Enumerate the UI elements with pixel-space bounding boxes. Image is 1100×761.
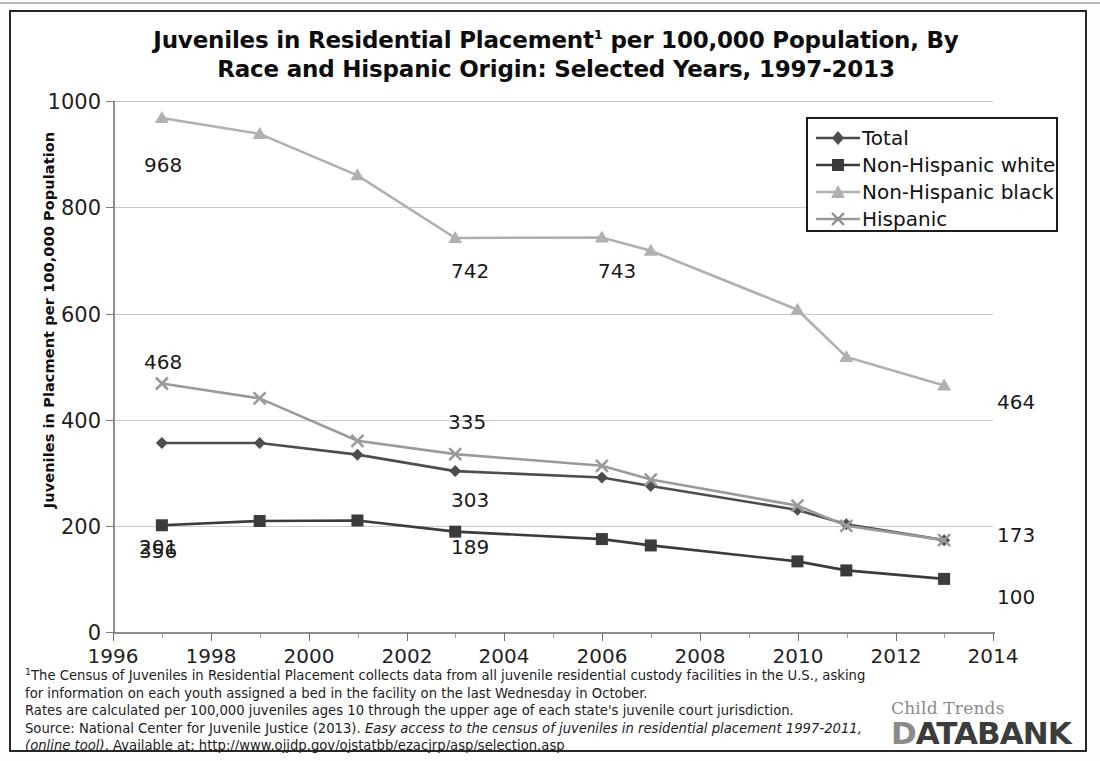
x-tick-label-2002: 2002 xyxy=(372,644,442,668)
child-trends-databank-logo: Child Trends DATABANK xyxy=(891,698,1071,760)
series-point-square xyxy=(351,514,363,526)
x-tick-label-2004: 2004 xyxy=(469,644,539,668)
x-tick-label-1996: 1996 xyxy=(78,644,148,668)
footnote-text-1: The Census of Juveniles in Residential P… xyxy=(31,668,865,683)
triangle-marker-icon xyxy=(816,183,860,201)
series-point-diamond xyxy=(254,437,266,449)
series-line-total xyxy=(162,443,944,540)
y-axis-title: Juveniles in Placment per 100,000 Popula… xyxy=(41,110,57,530)
logo-databank-part3: BANK xyxy=(977,715,1071,751)
source-url[interactable]: . Available at: http://www.ojjdp.gov/ojs… xyxy=(105,738,565,753)
data-label-white-1997: 201 xyxy=(139,535,177,559)
x-tick-label-2000: 2000 xyxy=(274,644,344,668)
figure-page: Juveniles in Residential Placement1 per … xyxy=(0,0,1100,761)
y-tick-label-0: 0 xyxy=(31,621,101,645)
data-label-hispanic-2003: 335 xyxy=(448,410,486,434)
x-tick-label-2008: 2008 xyxy=(665,644,735,668)
series-line-hispanic xyxy=(162,384,944,541)
series-point-square xyxy=(254,515,266,527)
scan-artifact-line xyxy=(0,2,1100,4)
x-tick-label-2006: 2006 xyxy=(567,644,637,668)
series-point-square xyxy=(938,573,950,585)
footnotes: 1The Census of Juveniles in Residential … xyxy=(25,667,865,755)
footnote-line-4: Source: National Center for Juvenile Jus… xyxy=(25,720,865,738)
legend-label-non-hispanic-black: Non-Hispanic black xyxy=(862,180,1054,204)
source-prefix: Source: National Center for Juvenile Jus… xyxy=(25,721,365,736)
x-tick-label-2012: 2012 xyxy=(861,644,931,668)
logo-databank-part1: D xyxy=(891,715,916,751)
data-label-white-2003: 189 xyxy=(451,535,489,559)
data-label-black-2006: 743 xyxy=(598,259,636,283)
x-tick-label-2010: 2010 xyxy=(763,644,833,668)
series-point-square xyxy=(156,519,168,531)
data-label-black-2003: 742 xyxy=(451,259,489,283)
chart-legend: Total Non-Hispanic white Non-Hispanic bl… xyxy=(806,117,1058,232)
data-label-white-2013: 100 xyxy=(997,585,1035,609)
footnote-line-2: for information on each youth assigned a… xyxy=(25,685,865,703)
series-point-square xyxy=(596,533,608,545)
data-label-total-2013: 173 xyxy=(997,523,1035,547)
series-point-diamond xyxy=(596,471,608,483)
figure-frame: Juveniles in Residential Placement1 per … xyxy=(9,10,1087,752)
footnote-line-1: 1The Census of Juveniles in Residential … xyxy=(25,667,865,685)
x-tick-label-1998: 1998 xyxy=(176,644,246,668)
source-title: Easy access to the census of juveniles i… xyxy=(365,721,862,736)
logo-databank-part2: ATA xyxy=(916,715,977,751)
diamond-marker-icon xyxy=(816,129,860,147)
legend-label-hispanic: Hispanic xyxy=(862,207,947,231)
x-marker-icon xyxy=(816,210,860,228)
legend-item-non-hispanic-white[interactable]: Non-Hispanic white xyxy=(816,151,1050,178)
series-line-non-hispanic-white xyxy=(162,521,944,579)
data-label-hispanic-1997: 468 xyxy=(144,350,182,374)
data-label-black-1997: 968 xyxy=(144,153,182,177)
legend-item-non-hispanic-black[interactable]: Non-Hispanic black xyxy=(816,178,1050,205)
data-label-black-2013: 464 xyxy=(997,390,1035,414)
series-point-triangle xyxy=(155,111,169,123)
data-label-total-2003: 303 xyxy=(451,488,489,512)
legend-item-total[interactable]: Total xyxy=(816,124,1050,151)
series-point-square xyxy=(645,539,657,551)
series-point-square xyxy=(840,564,852,576)
source-online-tool: (online tool) xyxy=(25,738,105,753)
legend-item-hispanic[interactable]: Hispanic xyxy=(816,205,1050,232)
footnote-line-3: Rates are calculated per 100,000 juvenil… xyxy=(25,702,865,720)
series-point-diamond xyxy=(645,480,657,492)
series-point-diamond xyxy=(351,449,363,461)
series-point-square xyxy=(791,555,803,567)
x-tick-label-2014: 2014 xyxy=(958,644,1028,668)
square-marker-icon xyxy=(816,156,860,174)
footnote-line-5: (online tool). Available at: http://www.… xyxy=(25,737,865,755)
series-point-diamond xyxy=(449,465,461,477)
logo-databank-text: DATABANK xyxy=(891,717,1071,749)
legend-label-total: Total xyxy=(862,126,909,150)
legend-label-non-hispanic-white: Non-Hispanic white xyxy=(862,153,1055,177)
series-point-diamond xyxy=(156,437,168,449)
